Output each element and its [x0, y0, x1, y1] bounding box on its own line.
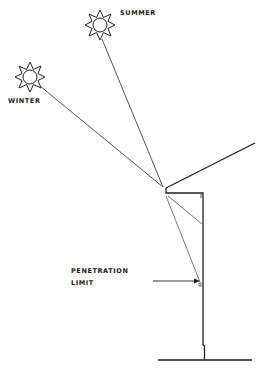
winter-sun-icon	[15, 62, 45, 92]
summer-penetration-ray	[166, 196, 200, 282]
roof-line	[166, 143, 255, 188]
overhang-and-wall	[166, 188, 205, 360]
winter-ray	[40, 86, 163, 187]
penetration-mark	[199, 283, 201, 286]
penetration-label-line1: PENETRATION	[71, 267, 128, 275]
penetration-label-line2: LIMIT	[71, 279, 94, 287]
summer-ray	[102, 39, 163, 187]
winter-penetration-ray	[168, 196, 202, 224]
summer-sun-icon	[85, 10, 115, 40]
winter-label: WINTER	[8, 97, 41, 105]
summer-label: SUMMER	[120, 9, 156, 17]
sun-angle-diagram: SUMMER WINTER PENETRATION LIMIT	[0, 0, 266, 368]
